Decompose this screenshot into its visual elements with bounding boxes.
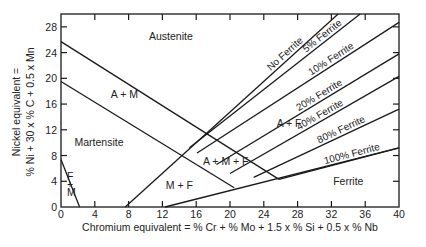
y-tick-label: 0 bbox=[51, 201, 57, 213]
region-label-austenite: Austenite bbox=[149, 30, 193, 42]
y-tick-label: 24 bbox=[45, 47, 57, 59]
x-tick-label: 4 bbox=[92, 208, 98, 220]
region-label-m-plus-f: M + F bbox=[166, 179, 193, 191]
x-tick-label: 16 bbox=[190, 208, 202, 220]
region-label-a-plus-f: A + F bbox=[277, 117, 302, 129]
x-tick-label: 40 bbox=[393, 208, 405, 220]
y-tick-label: 20 bbox=[45, 72, 57, 84]
x-tick-label: 12 bbox=[157, 208, 169, 220]
region-label-a-plus-m: A + M bbox=[111, 88, 138, 100]
y-tick-label: 16 bbox=[45, 98, 57, 110]
x-axis-title: Chromium equivalent = % Cr + % Mo + 1.5 … bbox=[82, 221, 378, 233]
x-tick-label: 0 bbox=[58, 208, 64, 220]
region-label-martensite: Martensite bbox=[75, 136, 124, 148]
x-tick-label: 24 bbox=[258, 208, 270, 220]
x-tick-label: 28 bbox=[292, 208, 304, 220]
x-tick-label: 32 bbox=[326, 208, 338, 220]
x-tick-label: 8 bbox=[126, 208, 132, 220]
region-label-a-plus-m-plus-f: A + M + F bbox=[203, 155, 249, 167]
ferrite-label-no-ferrite: No Ferrite bbox=[265, 34, 306, 72]
schaeffler-diagram: 04812162024283236400481216202428No Ferri… bbox=[0, 0, 426, 247]
y-tick-label: 8 bbox=[51, 150, 57, 162]
region-label-ferrite: Ferrite bbox=[333, 175, 363, 187]
y-axis-title-line1: Nickel equivalent = bbox=[10, 68, 22, 156]
y-tick-label: 12 bbox=[45, 124, 57, 136]
region-label-f-plus-m: M bbox=[67, 186, 76, 198]
x-tick-label: 36 bbox=[359, 208, 371, 220]
ferrite-label-100pct-ferrite: 100% Ferrite bbox=[323, 141, 382, 166]
y-tick-label: 4 bbox=[51, 175, 57, 187]
x-tick-label: 20 bbox=[224, 208, 236, 220]
y-tick-label: 28 bbox=[45, 21, 57, 33]
y-axis-title-line2: % Ni + 30 x % C + 0.5 x Mn bbox=[24, 47, 36, 176]
